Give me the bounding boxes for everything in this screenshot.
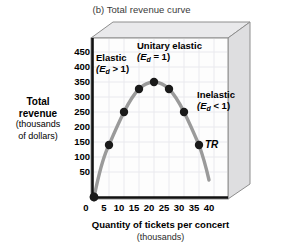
annotation-unitary-label: Unitary elastic bbox=[137, 40, 202, 51]
x-tick-label: 25 bbox=[156, 203, 172, 213]
data-point bbox=[120, 108, 128, 116]
y-axis-title: Total revenue (thousands of dollars) bbox=[2, 96, 74, 142]
y-tick-label: 450 bbox=[60, 47, 90, 57]
x-axis-title-line2: (thousands) bbox=[63, 231, 258, 243]
x-tick-label: 30 bbox=[171, 203, 187, 213]
origin-marker bbox=[90, 193, 99, 202]
y-tick-label: 300 bbox=[60, 92, 90, 102]
data-point bbox=[195, 141, 203, 149]
x-tick-label: 5 bbox=[96, 203, 112, 213]
total-revenue-figure: (b) Total revenue curve bbox=[0, 0, 283, 251]
curve-label-tr: TR bbox=[205, 139, 218, 150]
elasticity-symbol: (E bbox=[137, 51, 147, 62]
elasticity-symbol: (E bbox=[96, 63, 106, 74]
y-tick-label: 150 bbox=[60, 137, 90, 147]
elasticity-symbol: (E bbox=[197, 100, 207, 111]
y-tick-label: 200 bbox=[60, 122, 90, 132]
x-tick-label: 10 bbox=[111, 203, 127, 213]
elasticity-relation: = 1) bbox=[151, 51, 170, 62]
elasticity-subscript: d bbox=[147, 56, 151, 63]
annotation-inelastic-label: Inelastic bbox=[197, 89, 235, 100]
elasticity-relation: > 1) bbox=[110, 63, 129, 74]
data-point bbox=[105, 141, 113, 149]
elasticity-subscript: d bbox=[106, 68, 110, 75]
data-point bbox=[150, 78, 158, 86]
elasticity-subscript: d bbox=[207, 105, 211, 112]
box-top-face bbox=[91, 22, 250, 38]
annotation-elastic-label: Elastic bbox=[96, 52, 129, 63]
annotation-inelastic-formula: (Ed < 1) bbox=[197, 100, 235, 112]
x-tick-label: 40 bbox=[201, 203, 217, 213]
annotation-elastic-formula: (Ed > 1) bbox=[96, 63, 129, 75]
x-tick-label: 35 bbox=[186, 203, 202, 213]
annotation-unitary-formula: (Ed = 1) bbox=[137, 51, 202, 63]
y-tick-label: 50 bbox=[60, 167, 90, 177]
annotation-unitary-elastic: Unitary elastic (Ed = 1) bbox=[137, 40, 202, 63]
data-point bbox=[165, 85, 173, 93]
x-tick-label: 20 bbox=[141, 203, 157, 213]
y-tick-label: 350 bbox=[60, 77, 90, 87]
elasticity-relation: < 1) bbox=[211, 100, 230, 111]
y-tick-label: 100 bbox=[60, 152, 90, 162]
y-tick-label: 400 bbox=[60, 62, 90, 72]
data-point bbox=[135, 85, 143, 93]
x-axis-title: Quantity of tickets per concert (thousan… bbox=[63, 219, 258, 243]
x-tick-label: 0 bbox=[78, 203, 94, 213]
data-point bbox=[180, 108, 188, 116]
x-tick-label: 15 bbox=[126, 203, 142, 213]
annotation-elastic: Elastic (Ed > 1) bbox=[96, 52, 129, 75]
annotation-inelastic: Inelastic (Ed < 1) bbox=[197, 89, 235, 112]
x-axis-title-line1: Quantity of tickets per concert bbox=[63, 219, 258, 231]
y-tick-label: 250 bbox=[60, 107, 90, 117]
